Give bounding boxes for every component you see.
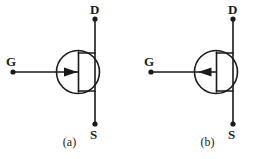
jfet-figure-b: D S G (b) (138, 0, 277, 159)
gate-arrowhead-b (198, 68, 212, 77)
gate-label-b: G (144, 55, 154, 68)
drain-terminal-dot-a (92, 16, 97, 21)
drain-label-a: D (90, 3, 99, 16)
jfet-figure-a: D S G (a) (0, 0, 139, 159)
drain-label-b: D (228, 3, 237, 16)
figure-caption-b: (b) (138, 136, 277, 148)
gate-arrowhead-a (64, 68, 78, 77)
drain-terminal-dot-b (230, 16, 235, 21)
gate-terminal-dot-a (10, 69, 15, 74)
figure-canvas: D S G (a) D S G (b) (0, 0, 277, 159)
gate-terminal-dot-b (148, 69, 153, 74)
figure-caption-a: (a) (0, 136, 139, 148)
gate-label-a: G (6, 55, 16, 68)
source-terminal-dot-b (230, 121, 235, 126)
source-terminal-dot-a (92, 121, 97, 126)
